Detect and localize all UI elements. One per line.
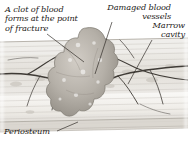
label-periosteum: Periosteum [4, 127, 50, 136]
label-periosteum-line1: Periosteum [4, 127, 50, 136]
label-blood-clot: A clot of blood forms at the point of fr… [5, 5, 78, 33]
label-blood-clot-line3: of fracture [5, 24, 78, 33]
fracture-clot-illustration: A clot of blood forms at the point of fr… [0, 0, 188, 145]
label-damaged-blood-vessels: Damaged blood vessels [99, 3, 171, 22]
label-marrow-cavity: Marrow cavity [131, 21, 185, 40]
label-marrow-line2: cavity [131, 30, 185, 39]
